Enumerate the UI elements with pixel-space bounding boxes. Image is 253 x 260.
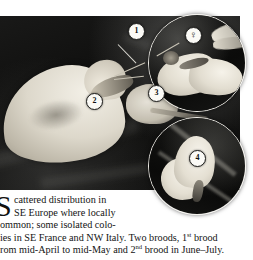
callout-marker-1[interactable]: 1 [128, 23, 145, 40]
body-text: S cattered distribution in SE Europe whe… [0, 194, 253, 257]
text-line: SE Europe where locally [0, 207, 253, 220]
text-run: brood [191, 232, 217, 243]
text-line: ommon; some isolated colo- [0, 219, 253, 232]
female-symbol-badge: ♀ [185, 27, 202, 44]
text-run: rom mid-April to mid-May and 2 [0, 244, 136, 255]
text-line: ies in SE France and NW Italy. Two brood… [0, 232, 253, 245]
text-line: rom mid-April to mid-May and 2nd brood i… [0, 244, 253, 257]
paragraph: S cattered distribution in SE Europe whe… [0, 194, 253, 257]
callout-marker-2[interactable]: 2 [86, 93, 103, 110]
butterfly-main [2, 56, 132, 168]
text-run: ies in SE France and NW Italy. Two brood… [0, 232, 187, 243]
text-run: brood in June–July. [142, 244, 224, 255]
drop-cap: S [0, 193, 12, 219]
guide-page: 1 2 3 4 ♀ S cattered distribution in SE … [0, 0, 253, 260]
butterfly-head [163, 51, 179, 65]
callout-marker-4[interactable]: 4 [189, 150, 206, 167]
callout-marker-3[interactable]: 3 [148, 85, 165, 102]
text-line: cattered distribution in [0, 194, 253, 207]
